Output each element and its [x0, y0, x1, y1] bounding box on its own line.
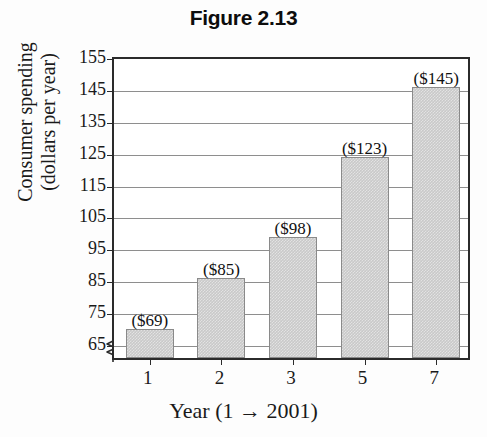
y-axis-tick-mark	[107, 123, 114, 124]
bar	[341, 157, 389, 358]
y-axis-tick-label: 145	[56, 80, 106, 98]
x-axis-tick-mark	[436, 358, 437, 365]
bar	[269, 237, 317, 358]
bar-value-label: ($123)	[342, 140, 387, 157]
x-axis-tick-label: 1	[143, 368, 153, 387]
bar	[197, 278, 245, 358]
x-axis-tick-mark	[150, 358, 151, 365]
y-axis-tick-label: 115	[56, 176, 106, 194]
y-axis-tick-mark	[107, 187, 114, 188]
y-axis-tick-mark	[107, 250, 114, 251]
bar-value-label: ($98)	[275, 220, 312, 237]
y-axis-tick-mark	[107, 155, 114, 156]
y-axis-tick-label: 125	[56, 144, 106, 162]
x-axis-tick-mark	[365, 358, 366, 365]
y-axis-tick-label: 105	[56, 207, 106, 225]
y-axis-tick-mark	[107, 59, 114, 60]
y-axis-tick-label: 85	[56, 271, 106, 289]
bar-value-label: ($145)	[414, 70, 459, 87]
y-axis-tick-label: 155	[56, 48, 106, 66]
y-axis-tick-label: 95	[56, 239, 106, 257]
x-axis-tick-mark	[221, 358, 222, 365]
bar-value-label: ($69)	[131, 312, 168, 329]
x-axis-tick-label: 2	[215, 368, 225, 387]
x-axis-tick-mark	[293, 358, 294, 365]
y-axis-tick-label: 65	[56, 335, 106, 353]
x-axis-tick-label: 5	[358, 368, 368, 387]
y-axis-tick-mark	[107, 346, 114, 347]
y-axis-tick-mark	[107, 218, 114, 219]
y-axis-tick-labels: 15514513512511510595857565	[56, 57, 106, 360]
y-axis-tick-label: 135	[56, 112, 106, 130]
figure-title: Figure 2.13	[0, 6, 487, 30]
x-axis-tick-labels: 12357	[112, 368, 470, 394]
y-axis-tick-label: 75	[56, 303, 106, 321]
plot-area: ($69)($85)($98)($123)($145)	[112, 57, 470, 360]
bar-value-label: ($85)	[203, 261, 240, 278]
x-axis-tick-label: 7	[429, 368, 439, 387]
bar	[412, 87, 460, 358]
y-axis-title-line-1: Consumer spending	[14, 42, 37, 201]
y-axis-tick-mark	[107, 282, 114, 283]
y-axis-tick-mark	[107, 91, 114, 92]
x-axis-tick-label: 3	[286, 368, 296, 387]
bar	[126, 329, 174, 358]
x-axis-title: Year (1 → 2001)	[0, 398, 487, 424]
y-axis-tick-mark	[107, 314, 114, 315]
